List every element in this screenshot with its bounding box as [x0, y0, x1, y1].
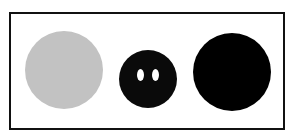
diagram-canvas — [0, 0, 294, 138]
face-circle — [119, 50, 177, 108]
eye-right — [152, 69, 159, 81]
gray-circle — [25, 31, 103, 109]
eye-left — [137, 69, 144, 81]
black-circle — [193, 33, 271, 111]
